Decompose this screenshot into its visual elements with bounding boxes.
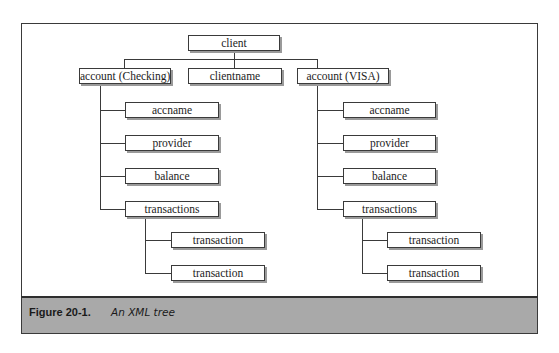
node-left-transaction-1: transaction — [171, 232, 265, 248]
node-right-transactions: transactions — [343, 201, 436, 217]
node-right-provider: provider — [343, 135, 436, 151]
node-right-transaction-2: transaction — [387, 265, 481, 281]
node-account-checking: account (Checking) — [79, 68, 171, 84]
connector-left-transaction-2 — [145, 273, 171, 274]
connector-right-transactions-stem — [362, 217, 363, 274]
connector-left-accname — [100, 110, 125, 111]
node-left-balance: balance — [125, 168, 219, 184]
node-left-transactions: transactions — [125, 201, 219, 217]
connector-right-transaction-2 — [362, 273, 387, 274]
figure-caption: An XML tree — [111, 306, 175, 318]
connector-left-transaction-1 — [145, 240, 171, 241]
node-account-visa: account (VISA) — [297, 68, 389, 84]
connector-left-transactions-stem — [145, 217, 146, 274]
node-right-transaction-1: transaction — [387, 232, 481, 248]
connector-right-transactions — [317, 209, 343, 210]
connector-right-balance — [317, 176, 343, 177]
connector-left-provider — [100, 143, 125, 144]
node-right-accname: accname — [343, 102, 436, 118]
connector-checking-stem — [100, 84, 101, 210]
node-client: client — [188, 35, 280, 51]
node-left-accname: accname — [125, 102, 219, 118]
connector-visa-stem — [317, 84, 318, 210]
node-clientname: clientname — [188, 68, 282, 84]
node-left-provider: provider — [125, 135, 219, 151]
connector-left-balance — [100, 176, 125, 177]
figure-number: Figure 20-1. — [29, 306, 91, 318]
connector-visa-drop — [317, 59, 318, 68]
connector-right-accname — [317, 110, 343, 111]
figure-caption-bar: Figure 20-1. An XML tree — [21, 296, 538, 334]
connector-checking-drop — [124, 59, 125, 68]
connector-left-transactions — [100, 209, 125, 210]
node-left-transaction-2: transaction — [171, 265, 265, 281]
connector-right-transaction-1 — [362, 240, 387, 241]
node-right-balance: balance — [343, 168, 436, 184]
connector-root-bar — [124, 59, 318, 60]
connector-right-provider — [317, 143, 343, 144]
